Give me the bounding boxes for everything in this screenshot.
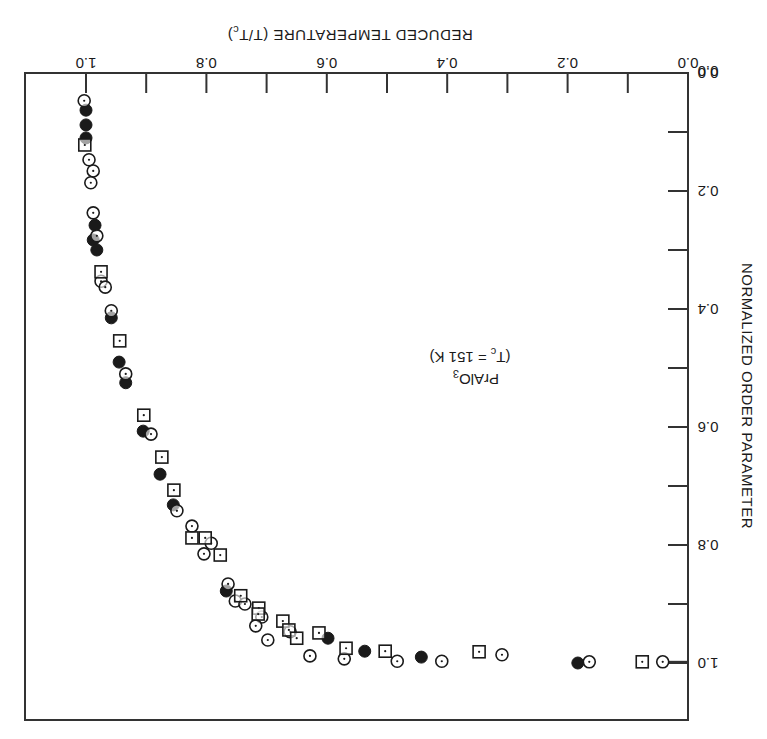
annotation-compound: PrAlO [459, 371, 499, 388]
data-point-dot [396, 660, 398, 662]
data-point-dot [318, 632, 320, 634]
data-point-dot [309, 655, 311, 657]
data-point-dot [296, 637, 298, 639]
data-point-dot [110, 310, 112, 312]
origin-label-text: 0.0 [698, 63, 719, 80]
svg-text:0.0: 0.0 [678, 55, 699, 72]
order-parameter-chart: REDUCED TEMPERATURE (T/Tc) NORMALIZED OR… [0, 0, 767, 739]
annotation-tc-prefix: (T [496, 349, 510, 366]
data-point-dot [343, 658, 345, 660]
y-axis-title: NORMALIZED ORDER PARAMETER [739, 263, 756, 529]
data-point-dot [345, 647, 347, 649]
x-axis-title: REDUCED TEMPERATURE (T/Tc) [227, 24, 472, 44]
data-point-dot [588, 661, 590, 663]
data-point-dot [161, 456, 163, 458]
series-dotted-square [79, 139, 648, 668]
annotation-compound-subscript: 3 [453, 368, 459, 380]
series-dotted-circle [78, 95, 669, 668]
y-tick-label: 0.4 [698, 301, 719, 318]
data-point-dot [191, 525, 193, 527]
data-point-dot [662, 661, 664, 663]
plot-frame [25, 73, 688, 720]
x-axis-title-tail: ) [227, 27, 233, 44]
y-tick-label: 0.8 [698, 537, 719, 554]
data-point-dot [282, 620, 284, 622]
svg-text:0.8: 0.8 [698, 537, 719, 554]
data-point-dot [92, 170, 94, 172]
annotation-tc-value: = 151 K) [430, 349, 491, 366]
data-point-dot [227, 583, 229, 585]
svg-text:0.2: 0.2 [557, 55, 578, 72]
svg-text:0.4: 0.4 [437, 55, 458, 72]
data-point-dot [203, 553, 205, 555]
data-point-dot [92, 212, 94, 214]
data-point-dot [441, 660, 443, 662]
data-points [78, 95, 669, 669]
data-point-dot [501, 654, 503, 656]
data-point [91, 244, 103, 256]
x-tick-label: 0.2 [557, 55, 578, 72]
x-tick-label: 0.4 [437, 55, 458, 72]
svg-text:0.6: 0.6 [698, 419, 719, 436]
data-point-dot [84, 144, 86, 146]
data-point-dot [257, 613, 259, 615]
data-point-dot [267, 639, 269, 641]
data-point-dot [88, 159, 90, 161]
svg-text:(Tc = 151 K): (Tc = 151 K) [430, 346, 511, 366]
svg-text:0.2: 0.2 [698, 183, 719, 200]
x-axis-title-text: REDUCED TEMPERATURE (T/T [239, 27, 473, 44]
svg-text:REDUCED TEMPERATURE (T/Tc): REDUCED TEMPERATURE (T/Tc) [227, 24, 472, 44]
data-point-dot [119, 340, 121, 342]
y-axis-title-text: NORMALIZED ORDER PARAMETER [739, 263, 756, 529]
x-tick-label: 0.0 [678, 55, 699, 72]
data-point-dot [255, 625, 257, 627]
data-point-dot [176, 510, 178, 512]
data-point-dot [83, 100, 85, 102]
data-point-dot [125, 373, 127, 375]
svg-text:1.0: 1.0 [76, 55, 97, 72]
data-point [154, 468, 166, 480]
data-point [359, 645, 371, 657]
data-point-dot [104, 286, 106, 288]
data-point-dot [204, 537, 206, 539]
data-point-dot [100, 271, 102, 273]
data-point-dot [143, 414, 145, 416]
y-tick-label: 0.6 [698, 419, 719, 436]
svg-text:0.6: 0.6 [316, 55, 337, 72]
data-point-dot [384, 650, 386, 652]
x-tick-label: 0.6 [316, 55, 337, 72]
origin-label: 0.0 [698, 63, 719, 80]
data-point-dot [641, 661, 643, 663]
data-point-dot [191, 537, 193, 539]
data-point [415, 651, 427, 663]
data-point-dot [150, 433, 152, 435]
data-point [113, 356, 125, 368]
x-tick-label: 0.8 [196, 55, 217, 72]
data-point-dot [478, 651, 480, 653]
svg-text:0.8: 0.8 [196, 55, 217, 72]
y-tick-label: 1.0 [698, 655, 719, 672]
x-tick-label: 1.0 [76, 55, 97, 72]
series-filled-circle [80, 104, 584, 669]
data-point-dot [96, 235, 98, 237]
data-point-dot [288, 629, 290, 631]
data-point-dot [90, 182, 92, 184]
data-point [572, 657, 584, 669]
y-axis-ticks: 0.00.20.40.60.81.0 [668, 65, 718, 672]
y-tick-label: 0.2 [698, 183, 719, 200]
data-point-dot [173, 489, 175, 491]
compound-annotation: PrAlO3 (Tc = 151 K) [430, 346, 511, 388]
data-point-dot [240, 595, 242, 597]
data-point-dot [219, 554, 221, 556]
svg-text:1.0: 1.0 [698, 655, 719, 672]
data-point-dot [244, 603, 246, 605]
data-point [80, 119, 92, 131]
svg-text:0.4: 0.4 [698, 301, 719, 318]
svg-text:PrAlO3: PrAlO3 [453, 368, 499, 388]
